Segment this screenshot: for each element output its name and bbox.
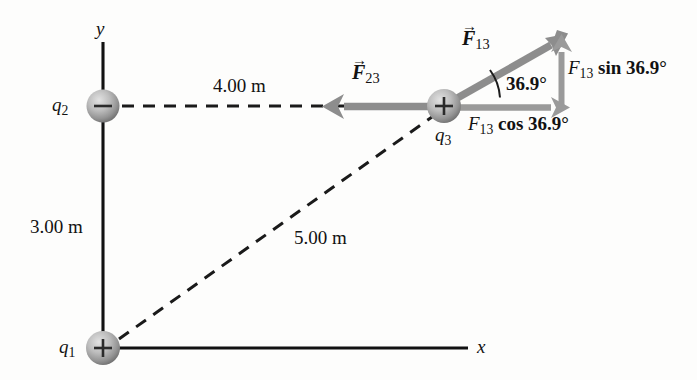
component-label-f13-cos: F13 cos 36.9° xyxy=(468,114,569,137)
force-vector-f23-arrow xyxy=(322,94,428,119)
component-label-sin-sub: 13 xyxy=(580,66,594,81)
component-label-cos-letter: F xyxy=(468,113,480,134)
vector-arrow-overbar-f13: → xyxy=(462,19,477,34)
charge-sphere-q1 xyxy=(86,331,120,365)
y-axis-label: y xyxy=(96,19,104,38)
force-label-f13-sub: 13 xyxy=(475,36,489,52)
charge-label-q3-sub: 3 xyxy=(445,133,452,148)
charge-label-q3-letter: q xyxy=(435,124,445,145)
component-label-sin-rest: sin 36.9° xyxy=(593,57,667,78)
dimension-label-4m: 4.00 m xyxy=(213,76,266,95)
charge-label-q2: q2 xyxy=(52,95,68,118)
charge-label-q3: q3 xyxy=(435,125,451,148)
charge-label-q1: q1 xyxy=(59,337,75,360)
angle-label-36-9: 36.9° xyxy=(506,74,547,93)
component-label-cos-rest: cos 36.9° xyxy=(493,113,569,134)
charge-label-q1-letter: q xyxy=(59,336,69,357)
dimension-label-3m: 3.00 m xyxy=(30,217,83,236)
charge-label-q2-letter: q xyxy=(52,94,62,115)
component-label-sin-letter: F xyxy=(568,57,580,78)
force-label-f23-sub: 23 xyxy=(365,70,379,86)
charge-sphere-q2 xyxy=(87,90,120,123)
physics-diagram-canvas: y x q2 q1 q3 3.00 m 4.00 m 5.00 m → F13 … xyxy=(0,0,697,380)
dimension-label-5m: 5.00 m xyxy=(294,228,347,247)
charge-label-q1-sub: 1 xyxy=(69,345,76,360)
component-label-f13-sin: F13 sin 36.9° xyxy=(568,58,667,81)
force-label-f23: → F23 xyxy=(352,62,380,85)
component-label-cos-sub: 13 xyxy=(480,122,494,137)
vector-arrow-overbar-f23: → xyxy=(352,53,367,68)
dashed-diagonal-5m xyxy=(119,117,432,339)
x-axis-label: x xyxy=(477,337,485,356)
charge-label-q2-sub: 2 xyxy=(62,103,69,118)
charge-sphere-q3 xyxy=(427,89,461,123)
force-label-f13: → F13 xyxy=(462,28,490,51)
